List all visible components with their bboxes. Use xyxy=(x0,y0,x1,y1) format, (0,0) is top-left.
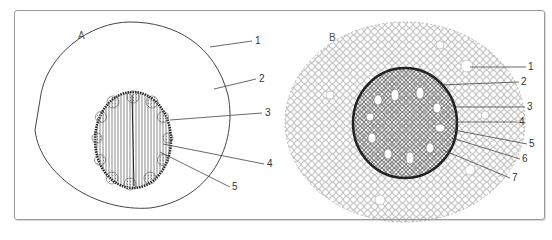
callout-b-2: 2 xyxy=(521,77,527,87)
callout-a-5: 5 xyxy=(232,182,238,192)
callout-b-1: 1 xyxy=(528,62,534,72)
callout-b-5: 5 xyxy=(529,139,535,149)
figure-caption-cutoff xyxy=(30,231,530,240)
callout-b-7: 7 xyxy=(512,173,518,183)
panel-b-label: B xyxy=(329,32,336,43)
callout-a-2: 2 xyxy=(259,74,265,84)
panel-a-drawing xyxy=(35,22,264,208)
panel-a-label: A xyxy=(78,30,85,41)
panel-b-drawing xyxy=(285,22,527,222)
callout-a-4: 4 xyxy=(267,159,273,169)
callout-b-4: 4 xyxy=(519,117,525,127)
callout-a-1: 1 xyxy=(255,36,261,46)
callout-a-3: 3 xyxy=(265,108,271,118)
callout-b-3: 3 xyxy=(527,102,533,112)
callout-b-6: 6 xyxy=(522,154,528,164)
